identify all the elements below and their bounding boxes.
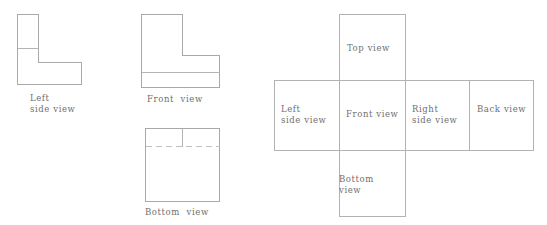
net-label-right-side-view-line1: Right (412, 104, 438, 114)
net-label-back-view: Back view (477, 104, 526, 115)
left-side-view-caption-line2: side view (30, 104, 75, 114)
net-label-left-side-view-line1: Left (281, 104, 301, 114)
net-label-top-view: Top view (347, 43, 390, 54)
left-side-view-outline (18, 15, 82, 85)
net-label-right-side-view: Rightside view (412, 104, 457, 126)
front-view-shape (130, 0, 235, 100)
net-label-left-side-view: Leftside view (281, 104, 326, 126)
left-side-view-shape (0, 0, 110, 100)
net-label-bottom-view-line1: Bottom (339, 174, 374, 184)
bottom-view-shape (130, 120, 235, 212)
left-side-view-caption: Leftside view (30, 93, 75, 115)
front-view-caption: Front view (147, 94, 203, 105)
net-label-right-side-view-line2: side view (412, 115, 457, 125)
net-label-bottom-view: Bottomview (339, 174, 405, 196)
net-label-front-view: Front view (346, 109, 399, 120)
bottom-view-caption: Bottom view (145, 207, 209, 218)
net-cell-back-view (470, 81, 534, 151)
net-label-left-side-view-line2: side view (281, 115, 326, 125)
left-side-view-caption-line1: Left (30, 93, 50, 103)
net-label-bottom-view-line2: view (339, 185, 361, 195)
front-view-outline (142, 15, 220, 88)
figure-canvas: Leftside view Front view Bottom view Top… (0, 0, 547, 225)
